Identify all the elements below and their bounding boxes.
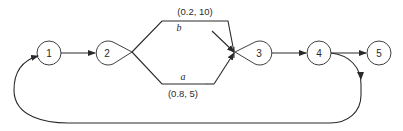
edge-2-3-upper: [132, 21, 234, 52]
node-1: 1: [37, 41, 61, 65]
node-4-label: 4: [316, 48, 322, 59]
node-5-label: 5: [376, 48, 382, 59]
edge-a-params: (0.8, 5): [168, 88, 198, 99]
node-1-label: 1: [46, 48, 52, 59]
node-4: 4: [307, 41, 331, 65]
network-diagram: 1 2 (0.2, 10) b a (0.8, 5) 3 4 5: [0, 0, 403, 131]
node-2: 2: [96, 41, 132, 65]
feedback-arrow-icon: [357, 72, 364, 80]
edge-b-name: b: [177, 22, 182, 33]
edge-2-3-lower-arrow: [214, 53, 234, 84]
edge-a-name: a: [181, 71, 186, 82]
node-3: 3: [234, 41, 272, 65]
node-2-label: 2: [104, 48, 110, 59]
node-5: 5: [367, 41, 391, 65]
edge-2-3-lower: [132, 52, 205, 84]
node-3-label: 3: [256, 48, 262, 59]
edge-b-params: (0.2, 10): [177, 6, 212, 17]
